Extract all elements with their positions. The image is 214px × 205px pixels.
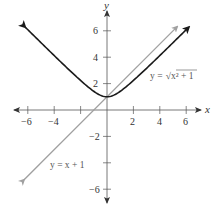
y-tick-label: 4 — [93, 52, 98, 63]
x-axis — [14, 106, 201, 114]
y-tick-label: 6 — [93, 25, 98, 36]
x-tick-label: 2 — [130, 116, 135, 127]
function-graph: x y −6 −4 2 4 6 6 4 2 −2 −6 y = √x² + 1 … — [0, 0, 214, 205]
x-tick-label: −6 — [21, 116, 32, 127]
y-tick-label: −6 — [89, 184, 100, 195]
curve-equation-label: y = √x² + 1 — [150, 70, 197, 81]
x-tick-label: 4 — [157, 116, 162, 127]
y-tick-label: 2 — [93, 78, 98, 89]
y-axis-label: y — [103, 0, 109, 11]
x-tick-label: −4 — [48, 116, 59, 127]
line-equation-label: y = x + 1 — [50, 160, 85, 170]
y-axis — [103, 11, 111, 203]
line-y-equals-x-plus-1 — [24, 27, 177, 180]
x-tick-label: 6 — [183, 116, 188, 127]
x-axis-label: x — [204, 103, 210, 115]
y-tick-label: −2 — [89, 131, 100, 142]
svg-text:y = √x² + 1: y = √x² + 1 — [150, 71, 194, 81]
